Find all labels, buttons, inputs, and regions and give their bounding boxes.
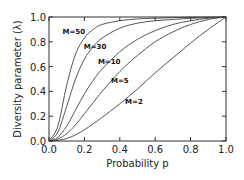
x-axis-ticks: 0.00.20.40.60.81.0 (41, 17, 234, 155)
curve-label: M=5 (111, 77, 129, 85)
x-tick-label: 0.6 (147, 144, 163, 155)
x-tick-label: 1.0 (218, 144, 234, 155)
y-tick-label: 0.8 (30, 37, 46, 48)
y-tick-label: 1.0 (30, 12, 46, 23)
x-tick-label: 0.8 (183, 144, 199, 155)
y-tick-label: 0.0 (30, 136, 46, 147)
x-axis-label: Probability p (106, 158, 168, 169)
y-tick-label: 0.2 (30, 111, 46, 122)
x-tick-label: 0.4 (112, 144, 128, 155)
curve-label: M=50 (62, 28, 85, 36)
x-tick-label: 0.2 (76, 144, 92, 155)
y-tick-label: 0.4 (30, 86, 46, 97)
curve-label: M=2 (125, 98, 143, 106)
y-tick-label: 0.6 (30, 62, 46, 73)
y-axis-label: Diversity parameter (λ) (12, 20, 23, 137)
curve-label: M=30 (84, 43, 107, 51)
line-chart: M=50M=30M=10M=5M=2 0.00.20.40.60.81.0 0.… (0, 0, 244, 180)
curve-label: M=10 (98, 58, 121, 66)
